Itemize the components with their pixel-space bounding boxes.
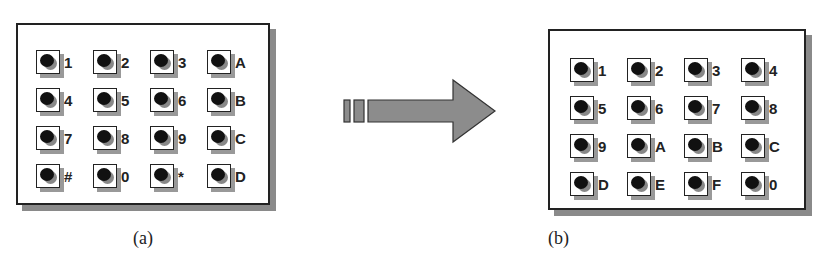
button-icon [570,134,594,158]
key-label: 5 [121,92,129,109]
button-icon [150,126,174,150]
button-icon [570,172,594,196]
button-icon [741,172,765,196]
button-icon [570,58,594,82]
key-label: 9 [598,138,606,155]
key-label: 4 [769,62,777,79]
key: A [207,43,264,81]
button-icon [741,134,765,158]
key: 3 [684,51,741,89]
key: D [207,157,264,195]
button-icon [684,172,708,196]
key-label: C [235,130,246,147]
keypad-a-grid: 1 2 3 A 4 5 6 B 7 8 9 C # 0 * D [36,43,264,195]
key-label: 6 [655,100,663,117]
key: * [150,157,207,195]
key: # [36,157,93,195]
button-icon [36,126,60,150]
key: 6 [150,81,207,119]
key-label: 8 [769,100,777,117]
key: E [627,165,684,203]
key: 2 [93,43,150,81]
key: 1 [36,43,93,81]
button-icon [150,88,174,112]
button-icon [93,164,117,188]
key-label: # [64,168,72,185]
button-icon [93,126,117,150]
key: D [570,165,627,203]
button-icon [684,58,708,82]
button-icon [684,134,708,158]
key-label: D [598,176,609,193]
key: 9 [150,119,207,157]
button-icon [207,50,231,74]
key: 5 [570,89,627,127]
key-label: B [235,92,246,109]
key-label: 3 [712,62,720,79]
key: B [207,81,264,119]
button-icon [207,88,231,112]
keypad-a: 1 2 3 A 4 5 6 B 7 8 9 C # 0 * D [16,23,270,205]
keypad-b: 1 2 3 4 5 6 7 8 9 A B C D E F 0 [548,29,806,210]
button-icon [93,88,117,112]
key-label: 0 [121,168,129,185]
key: 4 [36,81,93,119]
key-label: 7 [712,100,720,117]
key-label: E [655,176,665,193]
key-label: A [235,54,246,71]
button-icon [627,172,651,196]
key: 2 [627,51,684,89]
key: 0 [93,157,150,195]
button-icon [741,96,765,120]
key-label: B [712,138,723,155]
key: C [741,127,798,165]
key: 6 [627,89,684,127]
key-label: 5 [598,100,606,117]
key: 9 [570,127,627,165]
key-label: 2 [121,54,129,71]
button-icon [93,50,117,74]
key: 5 [93,81,150,119]
key: 4 [741,51,798,89]
key: A [627,127,684,165]
button-icon [36,164,60,188]
button-icon [207,164,231,188]
key-label: 8 [121,130,129,147]
key-label: * [178,168,184,185]
key-label: D [235,168,246,185]
key: 8 [93,119,150,157]
keypad-b-grid: 1 2 3 4 5 6 7 8 9 A B C D E F 0 [570,51,798,203]
key-label: 6 [178,92,186,109]
key: 7 [36,119,93,157]
right-arrow-icon [343,78,498,144]
key: 3 [150,43,207,81]
caption-a: (a) [133,228,153,249]
button-icon [741,58,765,82]
button-icon [627,134,651,158]
key-label: 2 [655,62,663,79]
key: C [207,119,264,157]
button-icon [627,96,651,120]
key: 1 [570,51,627,89]
key: 0 [741,165,798,203]
button-icon [36,50,60,74]
button-icon [207,126,231,150]
key-label: F [712,176,721,193]
key-label: 7 [64,130,72,147]
key-label: A [655,138,666,155]
button-icon [36,88,60,112]
key-label: 0 [769,176,777,193]
key: 7 [684,89,741,127]
button-icon [150,50,174,74]
key: B [684,127,741,165]
button-icon [684,96,708,120]
key-label: 1 [598,62,606,79]
button-icon [150,164,174,188]
key-label: 4 [64,92,72,109]
key-label: 3 [178,54,186,71]
caption-b: (b) [548,228,569,249]
key: 8 [741,89,798,127]
key: F [684,165,741,203]
key-label: 9 [178,130,186,147]
key-label: 1 [64,54,72,71]
